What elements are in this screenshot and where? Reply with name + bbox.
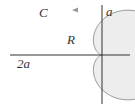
orientation-arrow-icon: [72, 8, 78, 13]
label-region-r: R: [67, 33, 75, 46]
label-curve-c: C: [39, 6, 48, 19]
label-a: a: [106, 5, 113, 18]
label-2a: 2a: [17, 57, 30, 70]
cardioid-diagram: [0, 0, 135, 108]
